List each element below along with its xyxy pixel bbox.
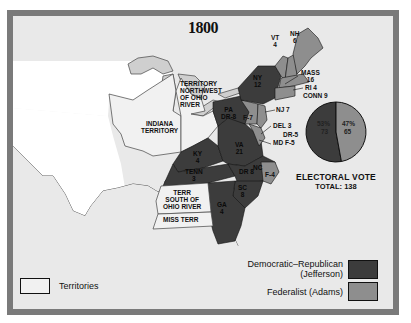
label-del: DEL 3 — [273, 122, 291, 129]
electoral-vote-pie — [306, 102, 366, 162]
label-md-f: MD F-5 — [273, 139, 295, 146]
label-sc: SC 8 — [238, 184, 247, 198]
electoral-vote-title: ELECTORAL VOTE — [291, 172, 381, 182]
pie-label-f-votes: 65 — [344, 128, 351, 135]
label-vt: VT 4 — [271, 34, 279, 48]
label-nh: NH 6 — [290, 30, 299, 44]
label-pa: PA DR-8 — [221, 106, 236, 120]
state-nj — [257, 104, 267, 128]
legend-label-territories: Territories — [59, 281, 99, 291]
label-ny: NY 12 — [253, 74, 262, 88]
legend-label-federalist: Federalist (Adams) — [267, 287, 343, 297]
label-ky: KY 4 — [193, 150, 202, 164]
label-ri: RI 4 — [305, 84, 317, 91]
label-nc-dr: DR 8 — [239, 168, 254, 175]
legend-swatch-territories — [20, 278, 50, 294]
pie-label-dr-percent: 53% — [317, 120, 330, 127]
label-nj-federalist: F-7 — [243, 114, 253, 121]
label-nc-federalist: F-4 — [265, 171, 275, 178]
legend-label-democratic-republican: Democratic–Republican (Jefferson) — [247, 259, 343, 279]
label-mississippi-territory: MISS TERR — [163, 216, 198, 223]
legend-territories: Territories — [20, 278, 99, 294]
legend-swatch-democratic-republican — [348, 260, 378, 279]
label-nc: NC — [253, 164, 262, 171]
label-northwest-territory: TERRITORY NORTHWEST OF OHIO RIVER — [180, 80, 222, 108]
legend-federalist: Federalist (Adams) — [267, 282, 378, 301]
label-tenn: TENN 3 — [185, 168, 203, 182]
label-conn: CONN 9 — [303, 92, 328, 99]
map-panel: 1800 VT 4 NH 6 MASS 16 RI 4 CONN 9 NY 12… — [13, 16, 393, 309]
label-ga: GA 4 — [217, 201, 227, 215]
label-mass: MASS 16 — [301, 69, 320, 83]
label-indiana-territory: INDIANA TERRITORY — [141, 120, 178, 134]
pie-label-dr-votes: 73 — [321, 128, 328, 135]
state-conn-ri — [275, 86, 295, 100]
legend-swatch-federalist — [348, 282, 378, 301]
label-va: VA 21 — [235, 141, 244, 155]
label-nj: NJ 7 — [276, 106, 290, 113]
map-title: 1800 — [13, 19, 393, 37]
pie-label-f-percent: 47% — [342, 120, 355, 127]
legend-democratic-republican: Democratic–Republican (Jefferson) — [247, 259, 378, 279]
label-md-dr: DR-5 — [283, 131, 298, 138]
label-territory-south: TERR SOUTH OF OHIO RIVER — [163, 189, 201, 210]
electoral-vote-total: TOTAL: 138 — [291, 182, 381, 191]
